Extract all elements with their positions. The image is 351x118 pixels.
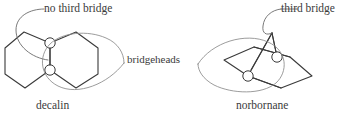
decalin-bridgehead-top <box>45 38 55 48</box>
norbornane-bridgeheads-lasso <box>198 38 284 92</box>
norbornane-bridgehead-lower <box>243 71 253 81</box>
decalin-bridgehead-bottom <box>45 65 55 75</box>
bridgehead-comparison-figure: no third bridge third bridge bridgeheads… <box>0 0 351 118</box>
norbornane-structure <box>224 33 312 88</box>
norbornane-bridge-right-overlay <box>272 33 276 52</box>
decalin-right-ring <box>50 32 98 88</box>
norbornane-ring <box>224 47 312 88</box>
annotation-bridgeheads: bridgeheads <box>127 54 180 65</box>
annotation-no-third-bridge: no third bridge <box>44 3 112 15</box>
norbornane-bridgehead-upper <box>272 52 282 62</box>
decalin-left-ring <box>5 32 50 88</box>
annotation-third-bridge: third bridge <box>281 3 335 15</box>
decalin-structure <box>5 32 98 88</box>
caption-norbornane: norbornane <box>236 100 288 112</box>
caption-decalin: decalin <box>36 100 69 112</box>
